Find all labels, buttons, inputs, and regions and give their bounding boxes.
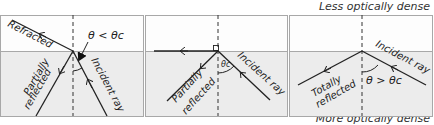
panel-1: θ < θc Refracted Partially reflected Inc… — [1, 15, 144, 117]
upper-medium — [290, 16, 433, 52]
total-internal-reflection-diagram: θ < θc Refracted Partially reflected Inc… — [0, 0, 434, 125]
upper-medium — [146, 16, 288, 52]
critical-angle-label: θc — [221, 60, 231, 69]
condition-label: θ > θc — [366, 74, 402, 87]
panel-2: θc Partially reflected Incident ray — [146, 15, 289, 117]
panel-3: θ > θc Totally reflected Incident ray — [290, 15, 433, 117]
condition-label: θ < θc — [88, 29, 124, 42]
